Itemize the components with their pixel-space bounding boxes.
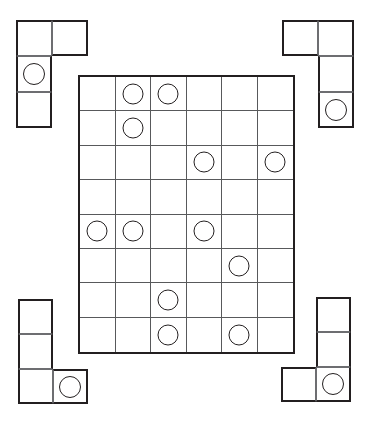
token-circle[interactable] — [158, 83, 179, 104]
grid-cell-r1-c2[interactable] — [116, 77, 152, 111]
grid-row — [80, 215, 293, 249]
piece-top-left-cell-2[interactable] — [52, 20, 88, 56]
grid-cell-r5-c3[interactable] — [151, 215, 187, 249]
piece-top-left-cell-1[interactable] — [16, 20, 52, 56]
puzzle-canvas — [0, 0, 372, 426]
main-grid[interactable] — [78, 75, 295, 354]
token-circle[interactable] — [229, 324, 250, 345]
grid-cell-r4-c6[interactable] — [258, 180, 294, 214]
piece-top-left[interactable] — [16, 20, 88, 128]
grid-cell-r4-c3[interactable] — [151, 180, 187, 214]
piece-top-left-cell-3[interactable] — [16, 56, 52, 92]
grid-cell-r2-c5[interactable] — [222, 111, 258, 145]
grid-cell-r7-c4[interactable] — [187, 283, 223, 317]
grid-cell-r1-c4[interactable] — [187, 77, 223, 111]
piece-top-left-cell-4[interactable] — [16, 92, 52, 128]
grid-cell-r7-c2[interactable] — [116, 283, 152, 317]
grid-cell-r4-c1[interactable] — [80, 180, 116, 214]
grid-cell-r1-c3[interactable] — [151, 77, 187, 111]
piece-top-right[interactable] — [282, 20, 354, 128]
piece-bottom-right-cell-4[interactable] — [316, 367, 351, 402]
grid-cell-r4-c4[interactable] — [187, 180, 223, 214]
piece-bottom-right-cell-3[interactable] — [281, 367, 316, 402]
piece-top-right-cell-2[interactable] — [318, 20, 354, 56]
grid-cell-r6-c5[interactable] — [222, 249, 258, 283]
grid-cell-r6-c4[interactable] — [187, 249, 223, 283]
piece-top-right-cell-3[interactable] — [318, 56, 354, 92]
grid-cell-r5-c2[interactable] — [116, 215, 152, 249]
grid-cell-r7-c5[interactable] — [222, 283, 258, 317]
token-circle[interactable] — [193, 221, 214, 242]
token-circle[interactable] — [322, 373, 344, 395]
grid-cell-r3-c2[interactable] — [116, 146, 152, 180]
grid-cell-r6-c6[interactable] — [258, 249, 294, 283]
token-circle[interactable] — [122, 118, 143, 139]
token-circle[interactable] — [325, 99, 347, 121]
token-circle[interactable] — [158, 324, 179, 345]
grid-cell-r3-c4[interactable] — [187, 146, 223, 180]
grid-row — [80, 77, 293, 111]
piece-bottom-left-cell-4[interactable] — [53, 369, 88, 404]
grid-cell-r3-c1[interactable] — [80, 146, 116, 180]
grid-cell-r6-c1[interactable] — [80, 249, 116, 283]
token-circle[interactable] — [265, 152, 286, 173]
grid-cell-r5-c5[interactable] — [222, 215, 258, 249]
piece-bottom-left-cell-1[interactable] — [18, 299, 53, 334]
token-circle[interactable] — [229, 255, 250, 276]
grid-cell-r8-c4[interactable] — [187, 318, 223, 352]
piece-bottom-right[interactable] — [281, 297, 351, 402]
grid-cell-r2-c2[interactable] — [116, 111, 152, 145]
piece-bottom-left-cell-3[interactable] — [18, 369, 53, 404]
grid-cell-r7-c3[interactable] — [151, 283, 187, 317]
token-circle[interactable] — [122, 221, 143, 242]
grid-cell-r2-c4[interactable] — [187, 111, 223, 145]
token-circle[interactable] — [122, 83, 143, 104]
grid-cell-r3-c5[interactable] — [222, 146, 258, 180]
token-circle[interactable] — [23, 63, 45, 85]
grid-cell-r2-c3[interactable] — [151, 111, 187, 145]
grid-row — [80, 146, 293, 180]
grid-cell-r6-c3[interactable] — [151, 249, 187, 283]
piece-bottom-right-cell-2[interactable] — [316, 332, 351, 367]
grid-cell-r5-c6[interactable] — [258, 215, 294, 249]
piece-bottom-right-cell-1[interactable] — [316, 297, 351, 332]
token-circle[interactable] — [158, 290, 179, 311]
grid-cell-r4-c2[interactable] — [116, 180, 152, 214]
piece-top-right-cell-1[interactable] — [282, 20, 318, 56]
grid-row — [80, 111, 293, 145]
grid-cell-r3-c3[interactable] — [151, 146, 187, 180]
grid-cell-r5-c4[interactable] — [187, 215, 223, 249]
grid-row — [80, 249, 293, 283]
token-circle[interactable] — [193, 152, 214, 173]
piece-bottom-left-cell-2[interactable] — [18, 334, 53, 369]
grid-row — [80, 283, 293, 317]
token-circle[interactable] — [87, 221, 108, 242]
grid-row — [80, 318, 293, 352]
grid-cell-r4-c5[interactable] — [222, 180, 258, 214]
grid-cell-r1-c5[interactable] — [222, 77, 258, 111]
piece-bottom-left[interactable] — [18, 299, 88, 404]
grid-cell-r6-c2[interactable] — [116, 249, 152, 283]
piece-top-right-cell-4[interactable] — [318, 92, 354, 128]
grid-row — [80, 180, 293, 214]
grid-cell-r8-c2[interactable] — [116, 318, 152, 352]
grid-cell-r8-c5[interactable] — [222, 318, 258, 352]
token-circle[interactable] — [59, 376, 81, 398]
grid-cell-r8-c3[interactable] — [151, 318, 187, 352]
grid-cell-r3-c6[interactable] — [258, 146, 294, 180]
grid-cell-r5-c1[interactable] — [80, 215, 116, 249]
